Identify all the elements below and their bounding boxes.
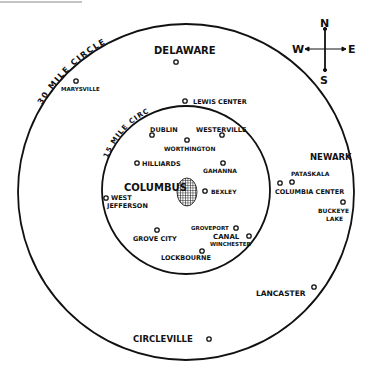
city-label-circleville: CIRCLEVILLE (133, 334, 193, 344)
city-label-gahanna: GAHANNA (203, 167, 237, 174)
city-label-lockbourne: LOCKBOURNE (161, 254, 211, 262)
compass-south: S (320, 74, 328, 87)
city-label-westerville: WESTERVILLE (196, 126, 246, 134)
city-label-canal-winchester: CANALWINCHESTER (210, 233, 252, 247)
marker-hilliards (135, 161, 139, 165)
city-label-dublin: DUBLIN (150, 126, 178, 134)
city-label-delaware: DELAWARE (154, 45, 216, 56)
marker-lewis-center (183, 99, 187, 103)
marker-marysville (74, 79, 78, 83)
city-label-hilliards: HILLIARDS (142, 160, 181, 168)
city-label-grove-city: GROVE CITY (133, 235, 177, 243)
marker-lockbourne (200, 249, 204, 253)
city-label-buckeye-lake: BUCKEYELAKE (318, 207, 349, 222)
city-label-west-jefferson: WESTJEFFERSON (106, 194, 148, 210)
city-label-lewis-center: LEWIS CENTER (193, 98, 247, 106)
marker-lancaster (312, 285, 316, 289)
marker-gahanna (221, 161, 225, 165)
city-label-bexley: BEXLEY (211, 188, 237, 195)
city-label-pataskala: PATASKALA (291, 170, 330, 177)
marker-columbia-center (278, 181, 282, 185)
marker-buckeye-lake (341, 200, 345, 204)
compass-west: W (292, 43, 304, 56)
city-label-newark: NEWARK (310, 152, 352, 162)
compass-rose-icon (305, 27, 346, 71)
city-label-marysville: MARYSVILLE (61, 86, 100, 92)
marker-canal-winchester (247, 234, 251, 238)
compass-east: E (348, 43, 356, 56)
marker-delaware (174, 60, 178, 64)
marker-grove-city (155, 228, 159, 232)
city-label-groveport: GROVEPORT (191, 225, 229, 231)
marker-pataskala (290, 180, 294, 184)
compass-north: N (320, 17, 329, 30)
city-label-worthington: WORTHINGTON (164, 145, 215, 152)
city-label-columbia-center: COLUMBIA CENTER (275, 188, 344, 196)
area-map: 30 MILE CIRCLE 15 MILE CIRCLE N S W E CO… (0, 0, 379, 377)
marker-bexley (203, 189, 207, 193)
marker-circleville (207, 337, 211, 341)
city-label-lancaster: LANCASTER (256, 289, 306, 298)
label-30-mile-circle: 30 MILE CIRCLE (36, 37, 108, 106)
marker-groveport (234, 226, 238, 230)
city-label-columbus: COLUMBUS (124, 182, 187, 193)
marker-worthington (185, 138, 189, 142)
marker-west-jefferson (104, 196, 108, 200)
